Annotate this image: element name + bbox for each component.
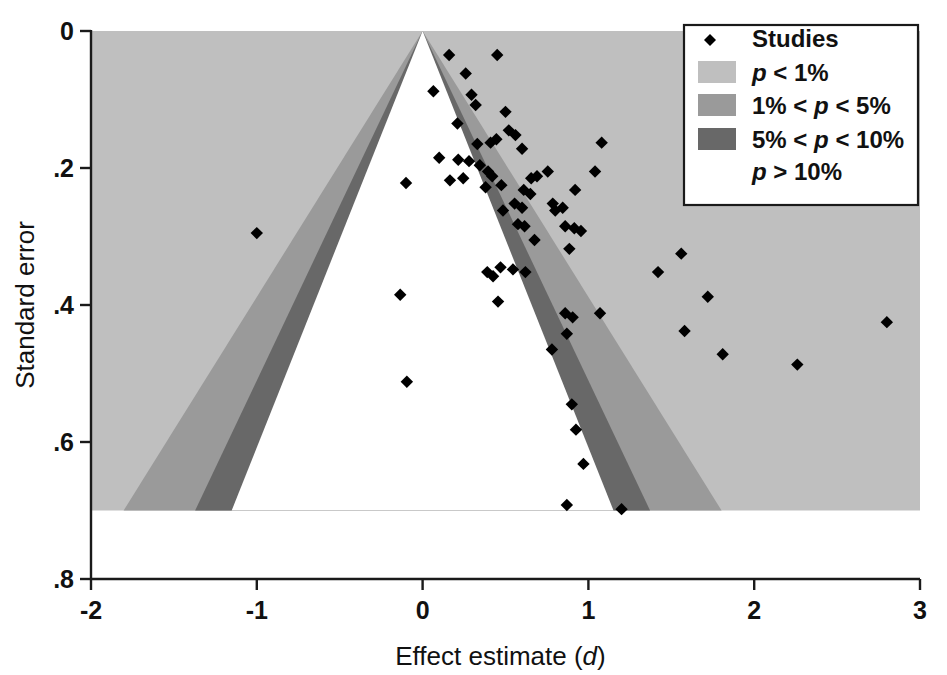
legend-label-p-lt-1: p < 1% (751, 59, 829, 86)
x-tick-label: -1 (246, 596, 268, 624)
funnel-plot-figure: 0.2.4.6.8-2-10123Standard errorEffect es… (0, 0, 947, 675)
legend-label-p-gt-10: p > 10% (751, 158, 842, 185)
legend-swatch-p-1-to-5 (698, 94, 736, 116)
legend-label-studies: Studies (752, 25, 839, 52)
x-tick-label: 1 (581, 596, 595, 624)
x-axis-title: Effect estimate (d) (395, 641, 606, 671)
legend-label-p-5-to-10: 5% < p < 10% (752, 126, 904, 153)
x-tick-label: 2 (747, 596, 761, 624)
legend-swatch-p-5-to-10 (698, 128, 736, 150)
x-tick-label: -2 (80, 596, 102, 624)
y-tick-label: .4 (53, 291, 74, 319)
funnel-plot-canvas: 0.2.4.6.8-2-10123Standard errorEffect es… (0, 0, 947, 675)
legend-swatch-p-lt-1 (698, 61, 736, 83)
legend-label-p-1-to-5: 1% < p < 5% (752, 92, 891, 119)
x-tick-label: 3 (913, 596, 927, 624)
x-tick-label: 0 (416, 596, 430, 624)
legend: Studiesp < 1%1% < p < 5%5% < p < 10%p > … (684, 25, 918, 205)
y-tick-label: 0 (60, 17, 74, 45)
y-tick-label: .8 (53, 565, 74, 593)
y-axis-title: Standard error (10, 221, 40, 389)
y-tick-label: .2 (53, 154, 74, 182)
y-tick-label: .6 (53, 428, 74, 456)
